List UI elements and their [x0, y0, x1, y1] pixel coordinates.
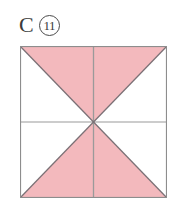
figure-label-letter: C	[19, 14, 34, 36]
figure-label-number: 11	[43, 18, 55, 31]
figure-card: C 11	[0, 0, 175, 206]
figure-label-number-circle: 11	[39, 15, 60, 36]
square-diagram	[20, 46, 167, 198]
square-diagram-svg	[20, 46, 167, 198]
figure-label: C 11	[19, 12, 60, 38]
